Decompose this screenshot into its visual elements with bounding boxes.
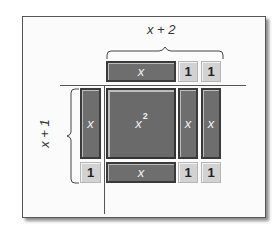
product-unit-label-1: 1	[184, 165, 191, 180]
top-x-tile: x	[106, 61, 176, 82]
product-bottom-x-label: x	[138, 165, 145, 180]
left-dimension-label: x + 1	[37, 119, 52, 148]
top-dimension-text: x + 2	[147, 22, 176, 37]
top-unit-label-1: 1	[184, 64, 191, 79]
left-x-tile: x	[80, 88, 101, 159]
left-x-label: x	[87, 116, 94, 131]
product-unit-tile-1: 1	[178, 162, 198, 183]
top-brace-icon	[106, 46, 224, 60]
left-dimension-text: x + 1	[37, 119, 52, 148]
horizontal-axis-line	[60, 85, 246, 86]
product-x-label-1: x	[185, 116, 192, 131]
top-unit-label-2: 1	[207, 64, 214, 79]
top-dimension-label: x + 2	[147, 22, 176, 37]
left-unit-label: 1	[87, 165, 94, 180]
top-x-label: x	[138, 64, 145, 79]
vertical-axis-line	[104, 85, 105, 214]
product-unit-tile-2: 1	[201, 162, 221, 183]
product-bottom-x-tile: x	[106, 162, 176, 183]
x-squared-base: x	[135, 116, 142, 131]
top-unit-tile-2: 1	[201, 61, 221, 82]
left-unit-tile: 1	[80, 162, 101, 183]
product-x-tile-1: x	[178, 88, 198, 159]
product-unit-label-2: 1	[207, 165, 214, 180]
product-x-label-2: x	[208, 116, 215, 131]
product-x-tile-2: x	[201, 88, 221, 159]
left-brace-icon	[66, 88, 80, 184]
x-squared-tile: x2	[106, 88, 176, 159]
top-unit-tile-1: 1	[178, 61, 198, 82]
x-squared-exponent: 2	[143, 111, 148, 121]
